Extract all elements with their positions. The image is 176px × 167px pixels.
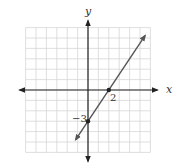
graph-line <box>76 35 146 140</box>
y-intercept-label: −3 <box>72 114 87 124</box>
y-axis-label: y <box>85 6 91 17</box>
x-axis-label: x <box>166 84 172 95</box>
x-intercept-label: 2 <box>110 93 116 103</box>
coordinate-plane <box>0 0 176 167</box>
